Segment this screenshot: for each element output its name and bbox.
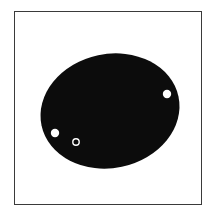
- dark-ellipse: [30, 41, 191, 182]
- white-dot-right-icon: [163, 90, 171, 98]
- white-dot-left-icon: [51, 129, 59, 137]
- figure-canvas: [0, 0, 210, 215]
